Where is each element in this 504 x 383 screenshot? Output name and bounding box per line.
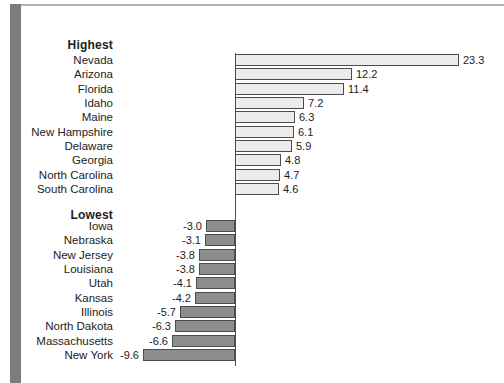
bar: [235, 140, 292, 152]
value-label: 4.7: [284, 169, 299, 181]
value-label: -5.7: [134, 306, 176, 318]
bar: [199, 263, 235, 275]
value-label: 7.2: [308, 97, 323, 109]
value-label: 12.2: [356, 68, 377, 80]
bar: [235, 97, 304, 109]
bar-chart: HighestNevada23.3Arizona12.2Florida11.4I…: [0, 0, 504, 383]
value-label: -4.2: [149, 292, 191, 304]
value-label: -3.8: [153, 263, 195, 275]
state-label: Nevada: [0, 54, 113, 66]
bar: [180, 306, 235, 318]
value-label: 11.4: [348, 83, 369, 95]
value-label: -9.6: [97, 349, 139, 361]
bar: [205, 234, 235, 246]
value-label: -3.1: [159, 234, 201, 246]
bar: [235, 111, 295, 123]
bar: [175, 320, 235, 332]
state-label: Utah: [0, 277, 113, 289]
state-label: North Carolina: [0, 169, 113, 181]
bar: [235, 83, 344, 95]
bar: [235, 54, 459, 66]
bar: [172, 335, 235, 347]
bar: [143, 349, 235, 361]
bar: [235, 169, 280, 181]
value-label: -4.1: [150, 277, 192, 289]
state-label: New Hampshire: [0, 126, 113, 138]
state-label: Delaware: [0, 140, 113, 152]
value-label: 4.6: [283, 183, 298, 195]
bar: [235, 126, 294, 138]
value-label: 5.9: [296, 140, 311, 152]
value-label: -3.8: [153, 249, 195, 261]
bar: [235, 154, 281, 166]
page-background: HighestNevada23.3Arizona12.2Florida11.4I…: [0, 0, 504, 383]
state-label: Massachusetts: [0, 335, 113, 347]
value-label: -3.0: [160, 220, 202, 232]
bar: [195, 292, 235, 304]
state-label: Florida: [0, 83, 113, 95]
state-label: North Dakota: [0, 320, 113, 332]
bar: [206, 220, 235, 232]
section-label-highest: Highest: [0, 39, 113, 52]
state-label: Louisiana: [0, 263, 113, 275]
state-label: Idaho: [0, 97, 113, 109]
state-label: Illinois: [0, 306, 113, 318]
state-label: Arizona: [0, 68, 113, 80]
state-label: Kansas: [0, 292, 113, 304]
state-label: South Carolina: [0, 183, 113, 195]
bar: [196, 277, 235, 289]
bar: [235, 68, 352, 80]
value-label: -6.6: [126, 335, 168, 347]
bar: [199, 249, 235, 261]
value-label: 6.1: [298, 126, 313, 138]
value-label: 23.3: [463, 54, 484, 66]
figure-page: { "figure": { "background": "#ffffff", "…: [0, 0, 504, 383]
value-label: 4.8: [285, 154, 300, 166]
state-label: Iowa: [0, 220, 113, 232]
bar: [235, 183, 279, 195]
state-label: Maine: [0, 111, 113, 123]
state-label: Nebraska: [0, 234, 113, 246]
state-label: Georgia: [0, 154, 113, 166]
value-label: -6.3: [129, 320, 171, 332]
value-label: 6.3: [299, 111, 314, 123]
state-label: New Jersey: [0, 249, 113, 261]
